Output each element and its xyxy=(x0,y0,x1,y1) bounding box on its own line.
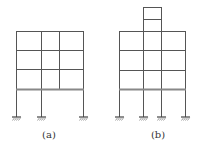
frame-figure-a xyxy=(12,31,88,121)
fixed-support-icon xyxy=(37,117,46,121)
fixed-support-icon xyxy=(79,117,88,121)
figure-b-caption: (b) xyxy=(151,130,165,140)
fixed-support-icon xyxy=(12,117,21,121)
diagram-canvas: (a) (b) xyxy=(0,0,197,150)
fixed-support-icon xyxy=(181,117,190,121)
frame-figure-b xyxy=(115,7,190,121)
fixed-support-icon xyxy=(115,117,124,121)
frame-diagrams-svg xyxy=(0,0,197,150)
figure-a-caption: (a) xyxy=(42,130,56,140)
fixed-support-icon xyxy=(139,117,148,121)
fixed-support-icon xyxy=(157,117,166,121)
